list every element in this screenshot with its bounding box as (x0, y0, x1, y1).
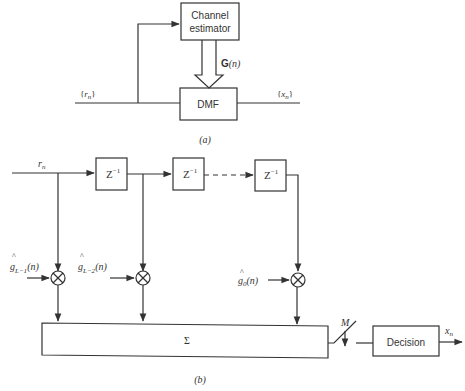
output-label-a: {xn} (277, 89, 293, 101)
delay-label-3: Z−1 (264, 168, 279, 181)
switch-label: M (340, 317, 350, 328)
delay-label-2: Z−1 (183, 167, 198, 180)
diagram-canvas: Channel estimator DMF G(n) {rn} {xn} (a) (0, 0, 465, 391)
delay-label-1: Z−1 (106, 167, 121, 180)
part-a-text: Channel estimator DMF G(n) {rn} {xn} (a) (80, 10, 293, 146)
tap-weight-label-2: gL−2(n) (78, 261, 107, 275)
part-a (75, 3, 300, 120)
part-b-text: rn Z−1 Z−1 Z−1 ^ gL−1(n) ^ gL−2(n) ^ g0(… (10, 158, 453, 386)
tap-weight-label-1: gL−1(n) (10, 261, 39, 275)
tap-weight-hat-1: ^ (12, 252, 16, 261)
input-label-a: {rn} (80, 89, 96, 101)
caption-b: (b) (194, 374, 206, 386)
multiplier-1 (51, 271, 65, 285)
summer-label: Σ (184, 335, 190, 346)
multiplier-3 (291, 273, 305, 287)
estimator-label-2: estimator (189, 23, 231, 34)
tap-line-3 (286, 175, 298, 271)
multiplier-2 (136, 271, 150, 285)
estimator-label-1: Channel (191, 10, 228, 21)
dmf-label: DMF (197, 99, 219, 110)
input-label-b: rn (38, 158, 46, 171)
caption-a: (a) (199, 134, 211, 146)
feedback-arrow (138, 24, 179, 103)
tap-weight-hat-2: ^ (80, 252, 84, 261)
channel-estimator-box (181, 3, 239, 40)
gain-hollow-arrow (195, 40, 223, 88)
gain-label: G(n) (221, 58, 241, 70)
tap-weight-label-3: g0(n) (238, 275, 259, 288)
output-label-b: xn (444, 325, 453, 338)
decision-label: Decision (387, 337, 425, 348)
